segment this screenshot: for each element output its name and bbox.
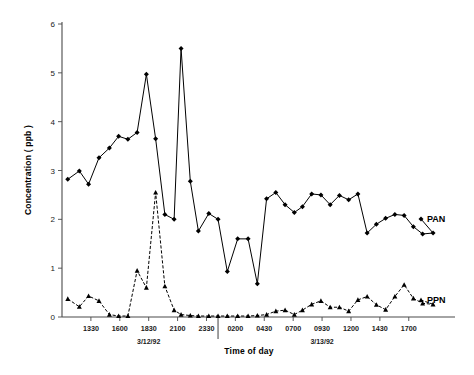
x-axis-title: Time of day — [224, 346, 273, 356]
y-axis-ticks: 0123456 — [51, 20, 62, 322]
y-tick-label: 4 — [51, 118, 56, 127]
data-point-ppn — [337, 305, 342, 310]
data-point-pan — [188, 179, 193, 184]
date-annotations: 3/12/923/13/92 — [137, 338, 334, 345]
data-point-pan — [392, 212, 397, 217]
chart-figure: Concentration ( ppb ) 0123456 1330160018… — [0, 0, 474, 375]
series-label-pan: PAN — [427, 214, 445, 224]
data-point-ppn — [374, 302, 379, 307]
data-point-ppn — [235, 313, 240, 318]
data-point-ppn — [153, 190, 158, 195]
data-point-ppn — [65, 296, 70, 301]
data-point-pan — [162, 212, 167, 217]
data-point-ppn — [402, 282, 407, 287]
data-point-ppn — [144, 285, 149, 290]
x-tick-label: 1830 — [141, 324, 157, 333]
y-tick-label: 5 — [51, 69, 56, 78]
data-point-pan — [255, 281, 260, 286]
x-tick-label: 0930 — [314, 324, 330, 333]
y-tick-label: 3 — [51, 167, 56, 176]
date-annotation: 3/12/92 — [137, 338, 160, 345]
data-point-ppn — [172, 308, 177, 313]
data-point-pan — [172, 217, 177, 222]
x-tick-label: 0430 — [256, 324, 272, 333]
x-tick-label: 1330 — [83, 324, 99, 333]
y-tick-label: 6 — [51, 20, 56, 29]
date-annotation: 3/13/92 — [310, 338, 333, 345]
data-point-pan — [383, 216, 388, 221]
data-point-ppn — [365, 294, 370, 299]
data-point-pan — [246, 236, 251, 241]
data-point-ppn — [125, 313, 130, 318]
data-point-ppn — [107, 312, 112, 317]
concentration-time-series-chart: Concentration ( ppb ) 0123456 1330160018… — [0, 0, 474, 375]
data-traces — [68, 48, 433, 316]
series-label-ppn: PPN — [427, 295, 446, 305]
y-tick-label: 1 — [51, 264, 56, 273]
data-point-pan — [144, 72, 149, 77]
data-point-pan — [225, 269, 230, 274]
x-tick-label: 1430 — [372, 324, 388, 333]
data-point-pan — [216, 217, 221, 222]
data-point-pan — [179, 46, 184, 51]
data-point-pan — [206, 211, 211, 216]
data-point-pan — [235, 236, 240, 241]
x-tick-label: 1700 — [401, 324, 417, 333]
data-point-ppn — [300, 308, 305, 313]
y-axis-title: Concentration ( ppb ) — [23, 125, 33, 215]
x-tick-label: 1600 — [112, 324, 128, 333]
x-axis-ticks: 1330160018302100233002000430070009301200… — [83, 317, 417, 333]
data-point-ppn — [97, 298, 102, 303]
data-point-pan — [153, 136, 158, 141]
y-tick-label: 2 — [51, 215, 56, 224]
x-tick-label: 2100 — [170, 324, 186, 333]
x-tick-label: 0200 — [227, 324, 243, 333]
trace-pan — [68, 48, 433, 283]
trace-ppn — [68, 192, 433, 316]
data-point-ppn — [135, 268, 140, 273]
data-point-ppn — [162, 284, 167, 289]
data-markers — [65, 46, 435, 318]
x-tick-label: 0700 — [285, 324, 301, 333]
data-point-ppn — [318, 298, 323, 303]
x-tick-label: 2330 — [198, 324, 214, 333]
legend-marker-ppn — [419, 297, 424, 302]
data-point-pan — [196, 229, 201, 234]
data-point-ppn — [292, 312, 297, 317]
data-point-pan — [355, 191, 360, 196]
x-tick-label: 1200 — [343, 324, 359, 333]
y-tick-label: 0 — [51, 313, 56, 322]
data-point-ppn — [86, 293, 91, 298]
data-point-pan — [346, 197, 351, 202]
